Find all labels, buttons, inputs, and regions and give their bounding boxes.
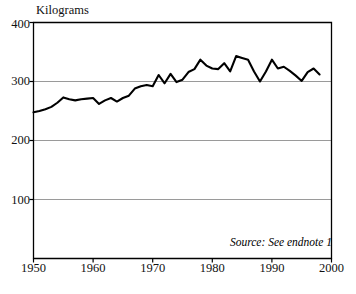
- x-tick-label-2000: 2000: [310, 262, 354, 274]
- x-tick-label-1980: 1980: [190, 262, 234, 274]
- x-tick-label-1990: 1990: [250, 262, 294, 274]
- axis-tick-marks: [30, 23, 332, 263]
- x-axis-tick-label-group: 195019601970198019902000: [0, 262, 356, 282]
- x-tick-label-1970: 1970: [131, 262, 175, 274]
- x-tick-label-1960: 1960: [71, 262, 115, 274]
- data-series-line: [34, 56, 320, 112]
- plot-area: [0, 0, 356, 294]
- chart-container: Kilograms 400 300 200 100 19501960197019…: [0, 0, 356, 294]
- source-note: Source: See endnote 1: [230, 236, 332, 249]
- x-tick-label-1950: 1950: [12, 262, 56, 274]
